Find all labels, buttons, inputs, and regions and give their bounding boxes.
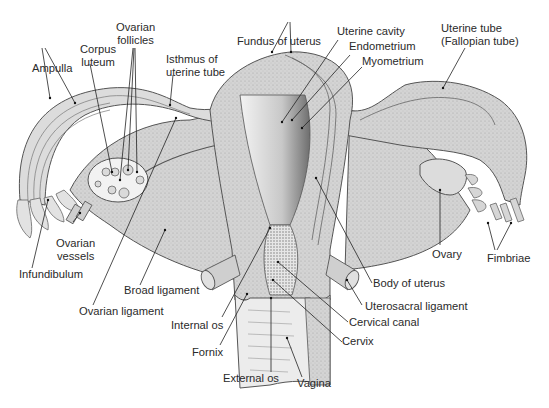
label-vagina: Vagina	[297, 377, 331, 390]
label-ovarian-ligament: Ovarian ligament	[79, 305, 164, 318]
label-ovary: Ovary	[432, 248, 462, 261]
label-cervix: Cervix	[342, 335, 374, 348]
label-endometrium: Endometrium	[349, 40, 416, 53]
label-fimbriae: Fimbriae	[487, 252, 531, 265]
label-external-os: External os	[223, 372, 279, 385]
label-fundus-of-uterus: Fundus of uterus	[237, 35, 321, 48]
label-ovarian-follicles-line2: follicles	[116, 34, 155, 47]
label-ovarian-vessels: Ovarian vessels	[56, 237, 95, 263]
label-internal-os: Internal os	[171, 319, 223, 332]
label-ovarian-follicles-line1: Ovarian	[116, 21, 155, 34]
label-fornix: Fornix	[192, 346, 223, 359]
label-corpus-luteum-line2: luteum	[80, 56, 116, 69]
label-uterine-tube: Uterine tube (Fallopian tube)	[441, 22, 519, 48]
label-broad-ligament: Broad ligament	[124, 284, 199, 297]
label-isthmus: Isthmus of uterine tube	[166, 53, 225, 79]
label-body-of-uterus: Body of uterus	[373, 277, 445, 290]
label-cervical-canal: Cervical canal	[349, 316, 419, 329]
label-uterine-tube-line2: (Fallopian tube)	[441, 35, 519, 48]
label-isthmus-line2: uterine tube	[166, 66, 225, 79]
label-corpus-luteum: Corpus luteum	[80, 43, 116, 69]
label-myometrium: Myometrium	[362, 55, 424, 68]
label-ovarian-vessels-line2: vessels	[56, 250, 95, 263]
label-infundibulum: Infundibulum	[19, 268, 83, 281]
label-uterosacral-ligament: Uterosacral ligament	[365, 300, 468, 313]
label-uterine-cavity: Uterine cavity	[337, 25, 405, 38]
label-ovarian-vessels-line1: Ovarian	[56, 237, 95, 250]
label-ovarian-follicles: Ovarian follicles	[116, 21, 155, 47]
cervical-canal-shape	[264, 225, 298, 295]
label-uterine-tube-line1: Uterine tube	[441, 22, 519, 35]
label-corpus-luteum-line1: Corpus	[80, 43, 116, 56]
label-isthmus-line1: Isthmus of	[166, 53, 225, 66]
label-ampulla: Ampulla	[32, 62, 72, 75]
